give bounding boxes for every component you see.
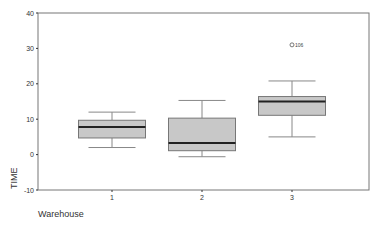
x-tick-label: 3: [290, 194, 294, 201]
y-tick-label: 20: [26, 80, 34, 87]
y-tick-label: 40: [26, 10, 34, 17]
box-iqr: [79, 120, 146, 138]
y-axis-title: TIME: [9, 168, 19, 190]
y-tick-label: 0: [30, 151, 34, 158]
x-tick-label: 2: [200, 194, 204, 201]
box-iqr: [169, 118, 236, 151]
outlier-marker: [290, 43, 294, 47]
x-axis-title: Warehouse: [38, 209, 84, 219]
outlier-label: 106: [295, 42, 304, 48]
x-tick-label: 1: [110, 194, 114, 201]
y-tick-label: 30: [26, 45, 34, 52]
boxplot-chart: -10010203040123106WarehouseTIME: [0, 0, 379, 227]
y-tick-label: 10: [26, 116, 34, 123]
box-iqr: [259, 97, 326, 116]
y-tick-label: -10: [24, 187, 34, 194]
